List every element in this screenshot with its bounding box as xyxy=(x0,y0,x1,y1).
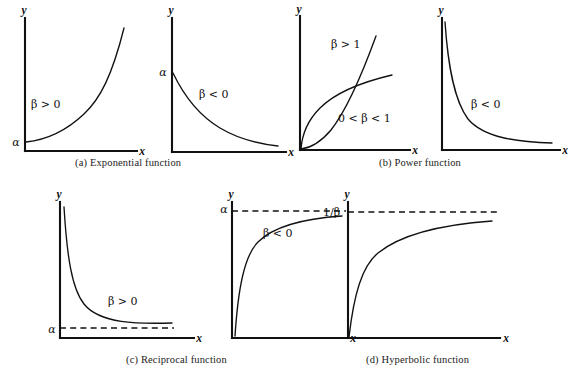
annotation-beta-negative: β < 0 xyxy=(471,98,501,111)
annotation-beta-negative: β < 0 xyxy=(263,227,293,240)
y-axis-label: y xyxy=(342,188,350,201)
curve-hyperbolic xyxy=(349,221,492,337)
panel-b2-power-negative-exponent: y x β < 0 xyxy=(418,4,578,156)
panel-c1-reciprocal-beta-positive: y x α β > 0 xyxy=(50,188,210,348)
curve-exponential-growth xyxy=(26,28,124,142)
annotation-beta-negative: β < 0 xyxy=(199,88,229,101)
panel-a1-exponential-beta-positive: y x α β > 0 xyxy=(0,4,148,156)
y-axis-label: y xyxy=(226,188,234,201)
y-axis-label: y xyxy=(436,4,444,17)
caption-a: (a) Exponential function xyxy=(75,157,181,168)
alpha-asymptote-label: α xyxy=(220,203,228,216)
caption-b: (b) Power function xyxy=(379,157,461,168)
annotation-beta-gt-1: β > 1 xyxy=(331,38,361,51)
annotation-beta-positive: β > 0 xyxy=(31,98,61,111)
y-axis-label: y xyxy=(54,188,62,201)
x-axis-label: x xyxy=(561,144,568,156)
x-axis-label: x xyxy=(502,332,509,344)
caption-d: (d) Hyperbolic function xyxy=(366,354,469,365)
panel-b1-power-positive-exponents: y x β > 1 0 < β < 1 xyxy=(284,4,418,156)
y-axis-label: y xyxy=(294,3,302,16)
curve-power-beta-gt-1 xyxy=(301,36,376,149)
curve-power-decay xyxy=(445,22,552,143)
one-over-beta-asymptote-label: 1/β xyxy=(323,206,340,219)
panel-d-hyperbolic: y x 1/β xyxy=(320,184,530,348)
caption-c: (c) Reciprocal function xyxy=(126,354,227,365)
alpha-intercept-label: α xyxy=(12,136,20,149)
annotation-beta-positive: β > 0 xyxy=(108,295,138,308)
panel-a2-exponential-beta-negative: y x α β < 0 xyxy=(148,4,294,156)
figure-nonlinear-function-shapes: y x α β > 0 y x α β < 0 y x β > 1 0 < β … xyxy=(0,0,578,387)
x-axis-label: x xyxy=(138,145,145,157)
annotation-beta-between-0-and-1: 0 < β < 1 xyxy=(338,112,391,125)
y-axis-label: y xyxy=(166,4,174,17)
curve-exponential-decay xyxy=(173,73,278,146)
alpha-asymptote-label: α xyxy=(48,323,56,336)
y-axis-label: y xyxy=(19,4,27,17)
alpha-intercept-label: α xyxy=(159,66,167,79)
